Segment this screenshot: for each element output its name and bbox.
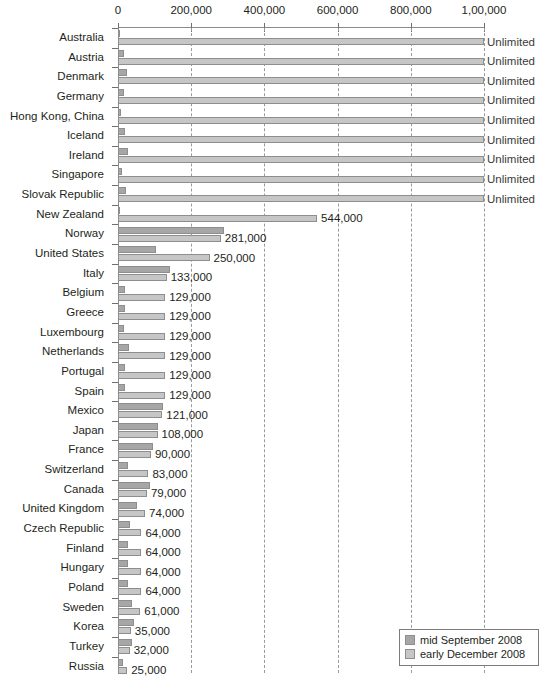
- x-axis-tick-label: 0: [115, 4, 121, 16]
- chart-row: Switzerland83,000: [0, 460, 549, 480]
- y-axis-tick-mark: [112, 87, 118, 88]
- legend-item-early-december-2008: early December 2008: [405, 647, 533, 661]
- chart-row: Hungary64,000: [0, 558, 549, 578]
- y-axis-tick-mark: [112, 657, 118, 658]
- value-label: 83,000: [152, 468, 187, 481]
- y-axis-tick-mark: [112, 185, 118, 186]
- chart-row: New Zealand544,000: [0, 205, 549, 225]
- value-label: 129,000: [169, 310, 211, 323]
- bar-early-december-2008: [118, 647, 130, 654]
- value-label: 121,000: [166, 409, 208, 422]
- bar-chart: 0200,000400,000600,000800,0001,00,000 Au…: [0, 0, 549, 693]
- unlimited-label: Unlimited: [487, 153, 535, 166]
- y-axis-tick-mark: [112, 107, 118, 108]
- bar-mid-september-2008: [118, 69, 127, 76]
- bar-mid-september-2008: [118, 462, 128, 469]
- bar-early-december-2008: [118, 313, 165, 320]
- bar-mid-september-2008: [118, 619, 134, 626]
- y-axis-tick-mark: [112, 598, 118, 599]
- bar-early-december-2008: [118, 627, 131, 634]
- value-label: 250,000: [214, 252, 256, 265]
- bar-early-december-2008: [118, 608, 140, 615]
- category-label: United States: [0, 246, 104, 261]
- value-label: 64,000: [145, 546, 180, 559]
- bar-mid-september-2008: [118, 266, 170, 273]
- bar-mid-september-2008: [118, 30, 120, 37]
- category-label: Korea: [0, 619, 104, 634]
- y-axis-tick-mark: [112, 637, 118, 638]
- category-label: New Zealand: [0, 207, 104, 222]
- category-label: Belgium: [0, 285, 104, 300]
- y-axis-tick-mark: [112, 342, 118, 343]
- chart-row: Mexico121,000: [0, 401, 549, 421]
- chart-row: IcelandUnlimited: [0, 126, 549, 146]
- chart-row: Canada79,000: [0, 480, 549, 500]
- bar-early-december-2008: [118, 529, 141, 536]
- y-axis-tick-mark: [112, 244, 118, 245]
- category-label: Austria: [0, 50, 104, 65]
- bar-early-december-2008: [118, 176, 484, 183]
- category-label: Iceland: [0, 128, 104, 143]
- legend-label-mid-september: mid September 2008: [420, 634, 522, 646]
- value-label: 108,000: [162, 428, 204, 441]
- bar-mid-september-2008: [118, 639, 132, 646]
- y-axis-tick-mark: [112, 165, 118, 166]
- x-axis-tick-label: 800,000: [390, 4, 432, 16]
- y-axis-tick-mark: [112, 519, 118, 520]
- chart-row: Japan108,000: [0, 421, 549, 441]
- bar-mid-september-2008: [118, 364, 125, 371]
- unlimited-label: Unlimited: [487, 55, 535, 68]
- bar-mid-september-2008: [118, 187, 126, 194]
- bar-mid-september-2008: [118, 246, 156, 253]
- value-label: 32,000: [134, 644, 169, 657]
- category-label: Slovak Republic: [0, 187, 104, 202]
- unlimited-label: Unlimited: [487, 36, 535, 49]
- y-axis-tick-mark: [112, 499, 118, 500]
- bar-early-december-2008: [118, 667, 127, 674]
- y-axis-tick-mark: [112, 401, 118, 402]
- y-axis-tick-mark: [112, 28, 118, 29]
- value-label: 90,000: [155, 448, 190, 461]
- y-axis-tick-mark: [112, 303, 118, 304]
- chart-row: GermanyUnlimited: [0, 87, 549, 107]
- chart-row: Finland64,000: [0, 539, 549, 559]
- y-axis-tick-mark: [112, 617, 118, 618]
- unlimited-label: Unlimited: [487, 134, 535, 147]
- unlimited-label: Unlimited: [487, 193, 535, 206]
- bar-early-december-2008: [118, 254, 210, 261]
- y-axis-tick-mark: [112, 578, 118, 579]
- legend-swatch-icon-early-december: [405, 649, 415, 659]
- value-label: 35,000: [135, 625, 170, 638]
- value-label: 129,000: [169, 369, 211, 382]
- value-label: 64,000: [145, 585, 180, 598]
- chart-row: Norway281,000: [0, 224, 549, 244]
- value-label: 79,000: [151, 487, 186, 500]
- value-label: 281,000: [225, 232, 267, 245]
- bar-mid-september-2008: [118, 286, 125, 293]
- x-axis-tick-label: 200,000: [170, 4, 212, 16]
- bar-mid-september-2008: [118, 344, 129, 351]
- value-label: 25,000: [131, 664, 166, 677]
- legend-label-early-december: early December 2008: [420, 648, 525, 660]
- chart-row: United Kingdom74,000: [0, 499, 549, 519]
- x-axis-tick-label: 600,000: [317, 4, 359, 16]
- bar-early-december-2008: [118, 352, 165, 359]
- value-label: 129,000: [169, 350, 211, 363]
- bar-early-december-2008: [118, 77, 484, 84]
- bar-mid-september-2008: [118, 50, 124, 57]
- value-label: 64,000: [145, 527, 180, 540]
- legend-swatch-icon-mid-september: [405, 635, 415, 645]
- y-axis-tick-mark: [112, 283, 118, 284]
- bar-mid-september-2008: [118, 521, 130, 528]
- bar-mid-september-2008: [118, 207, 120, 214]
- bar-mid-september-2008: [118, 403, 163, 410]
- y-axis-tick-mark: [112, 146, 118, 147]
- bar-early-december-2008: [118, 58, 484, 65]
- bar-early-december-2008: [118, 431, 158, 438]
- chart-row: IrelandUnlimited: [0, 146, 549, 166]
- bar-early-december-2008: [118, 274, 167, 281]
- category-label: Finland: [0, 541, 104, 556]
- bar-early-december-2008: [118, 38, 484, 45]
- y-axis-tick-mark: [112, 558, 118, 559]
- bar-early-december-2008: [118, 510, 145, 517]
